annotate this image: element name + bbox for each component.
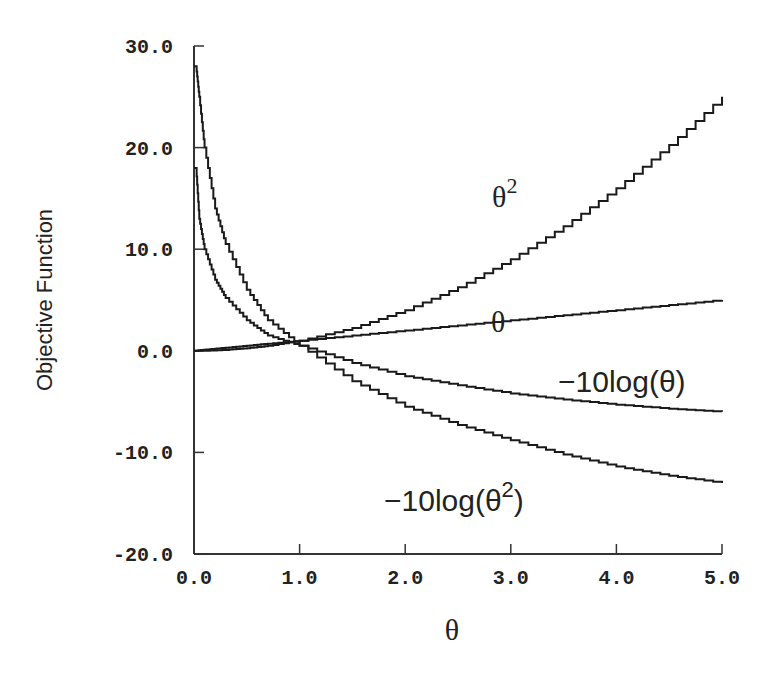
label-neg-log-theta-squared: −10log(θ2) [384,477,524,517]
curve-neg-log-theta-squared [194,66,722,483]
label-neg-log-theta: −10log(θ) [558,365,686,398]
x-tick-label: 2.0 [387,567,423,590]
objective-function-chart: 0.01.02.03.04.05.030.020.010.00.0-10.0-2… [0,0,773,673]
label-theta-squared: θ2 [492,173,517,213]
y-tick-label: 0.0 [137,341,173,364]
y-tick-label: 10.0 [125,239,173,262]
y-tick-label: 20.0 [125,138,173,161]
label-theta-squared-sup: 2 [506,173,517,198]
x-tick-label: 5.0 [704,567,740,590]
label-theta: θ [491,305,505,338]
y-axis-title: Objective Function [32,209,57,391]
label-neg-log-theta-squared-sup: 2 [502,477,514,502]
axes [194,46,722,554]
x-tick-label: 1.0 [282,567,318,590]
curves [194,66,722,483]
y-tick-label: 30.0 [125,36,173,59]
tick-marks [194,46,722,554]
y-tick-label: -10.0 [113,442,173,465]
label-neg-log-theta-squared-suffix: ) [514,484,524,517]
curve-theta-squared [194,97,722,351]
x-tick-label: 0.0 [176,567,212,590]
x-axis-title: θ [445,613,459,646]
x-tick-label: 3.0 [493,567,529,590]
label-theta-squared-base: θ [492,180,506,213]
label-neg-log-theta-squared-prefix: −10log(θ [384,484,502,517]
y-tick-label: -20.0 [113,544,173,567]
x-tick-label: 4.0 [598,567,634,590]
